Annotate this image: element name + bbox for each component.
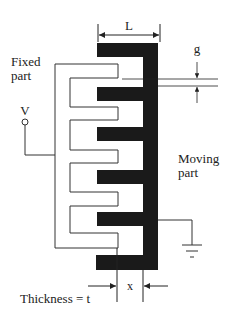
moving-finger (97, 212, 147, 226)
voltage-terminal (22, 119, 55, 155)
moving-spine (143, 43, 158, 270)
moving-finger (97, 43, 147, 57)
moving-finger (97, 170, 147, 184)
length-label: L (125, 18, 133, 33)
gap-label: g (194, 41, 201, 56)
moving-part-label-2: part (178, 165, 199, 180)
diagram-svg: L g Fixed part V Moving part x Thickness… (0, 0, 230, 320)
comb-drive-diagram: L g Fixed part V Moving part x Thickness… (0, 0, 230, 320)
moving-part-label-1: Moving (178, 151, 220, 166)
voltage-node-icon (22, 119, 28, 125)
fixed-part-label-1: Fixed (11, 54, 41, 69)
fixed-part-label-2: part (11, 68, 32, 83)
moving-finger (97, 127, 147, 141)
moving-part (96, 43, 158, 270)
overlap-label: x (127, 279, 133, 293)
moving-finger (97, 87, 147, 101)
moving-finger (96, 255, 158, 270)
ground (158, 220, 202, 257)
voltage-label: V (20, 103, 30, 118)
thickness-label: Thickness = t (20, 291, 91, 306)
